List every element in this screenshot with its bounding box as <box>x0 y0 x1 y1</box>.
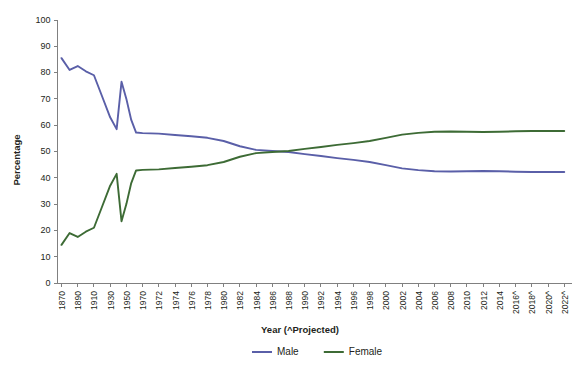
x-tick-label: 1992 <box>316 291 326 310</box>
x-tick-label: 2022^ <box>560 291 570 314</box>
x-tick-label: 1972 <box>154 291 164 310</box>
x-tick-label: 1998 <box>365 291 375 310</box>
y-tick-label: 100 <box>35 15 50 25</box>
x-tick-label: 1986 <box>268 291 278 310</box>
x-tick-label: 1910 <box>89 291 99 310</box>
y-tick-label: 40 <box>40 173 50 183</box>
x-tick-label: 2018^ <box>527 291 537 314</box>
x-tick-label: 1890 <box>73 291 83 310</box>
y-axis-title: Percentage <box>11 134 22 185</box>
x-tick-label: 2008 <box>446 291 456 310</box>
y-tick-label: 10 <box>40 252 50 262</box>
y-tick-label: 80 <box>40 67 50 77</box>
legend-label-male: Male <box>277 346 299 357</box>
x-tick-label: 1980 <box>219 291 229 310</box>
y-tick-label: 20 <box>40 225 50 235</box>
x-tick-label: 1988 <box>284 291 294 310</box>
x-tick-label: 1994 <box>333 291 343 310</box>
line-chart: 0102030405060708090100 18701890191019301… <box>0 0 586 371</box>
x-tick-label: 2020^ <box>544 291 554 314</box>
x-tick-label: 1996 <box>349 291 359 310</box>
x-tick-label: 2010 <box>462 291 472 310</box>
x-tick-label: 2014 <box>495 291 505 310</box>
x-tick-label: 2004 <box>414 291 424 310</box>
y-tick-label: 0 <box>45 278 50 288</box>
x-tick-label: 1930 <box>106 291 116 310</box>
x-tick-label: 2016^ <box>511 291 521 314</box>
x-tick-label: 2000 <box>381 291 391 310</box>
x-tick-label: 1984 <box>252 291 262 310</box>
y-tick-label: 70 <box>40 94 50 104</box>
y-tick-label: 90 <box>40 41 50 51</box>
x-tick-label: 1974 <box>171 291 181 310</box>
x-tick-label: 2006 <box>430 291 440 310</box>
x-tick-label: 1978 <box>203 291 213 310</box>
chart-background <box>0 0 586 371</box>
x-tick-label: 1976 <box>187 291 197 310</box>
x-tick-label: 2002 <box>398 291 408 310</box>
legend-label-female: Female <box>349 346 383 357</box>
x-tick-label: 1870 <box>57 291 67 310</box>
chart-container: 0102030405060708090100 18701890191019301… <box>0 0 586 371</box>
y-tick-label: 30 <box>40 199 50 209</box>
x-tick-label: 1950 <box>122 291 132 310</box>
x-axis-title: Year (^Projected) <box>261 324 339 335</box>
y-tick-label: 60 <box>40 120 50 130</box>
x-tick-label: 1970 <box>138 291 148 310</box>
x-tick-label: 1982 <box>235 291 245 310</box>
x-tick-label: 2012 <box>479 291 489 310</box>
y-tick-label: 50 <box>40 146 50 156</box>
x-tick-label: 1990 <box>300 291 310 310</box>
